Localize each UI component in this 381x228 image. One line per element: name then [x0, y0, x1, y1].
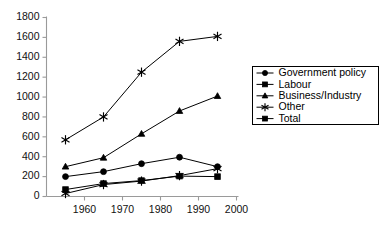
data-point [100, 154, 107, 160]
data-point [101, 169, 107, 175]
data-point [177, 154, 183, 160]
data-point [61, 135, 69, 144]
legend-label: Government policy [279, 66, 367, 78]
series-group [61, 32, 221, 198]
series-business-industry [62, 93, 221, 169]
legend-label: Business/Industry [279, 89, 363, 101]
y-tick-label: 200 [22, 169, 40, 181]
y-tick-label: 1000 [16, 90, 40, 102]
x-tick-label: 1990 [187, 203, 211, 215]
y-tick-label: 1200 [16, 70, 40, 82]
data-point [139, 161, 145, 167]
legend-label: Other [279, 100, 306, 112]
legend-label: Total [279, 112, 301, 124]
data-point [63, 174, 69, 180]
legend-marker-circle-icon [262, 70, 267, 75]
y-tick-label: 1400 [16, 50, 40, 62]
data-point [138, 130, 145, 136]
y-tick-label: 0 [34, 189, 40, 201]
chart-canvas: 0200400600800100012001400160018001960197… [0, 0, 381, 228]
data-point [214, 93, 221, 99]
y-tick-label: 1800 [16, 10, 40, 22]
legend-marker-square-icon [263, 116, 268, 121]
axes-group: 0200400600800100012001400160018001960197… [16, 10, 248, 214]
series-line [66, 36, 218, 139]
line-chart: 0200400600800100012001400160018001960197… [0, 0, 381, 228]
series-other [61, 164, 221, 198]
y-tick-label: 600 [22, 130, 40, 142]
y-tick-label: 800 [22, 110, 40, 122]
data-point [215, 174, 221, 180]
y-tick-label: 1600 [16, 30, 40, 42]
x-tick-label: 1970 [111, 203, 135, 215]
legend-marker-square-icon [263, 82, 268, 87]
series-total [61, 32, 221, 145]
x-tick-label: 1960 [73, 203, 97, 215]
legend-label: Labour [279, 78, 312, 90]
y-tick-label: 400 [22, 150, 40, 162]
x-tick-label: 2000 [225, 203, 249, 215]
x-tick-label: 1980 [149, 203, 173, 215]
series-government-policy [63, 154, 221, 179]
legend: Government policyLabourBusiness/Industry… [253, 66, 379, 124]
